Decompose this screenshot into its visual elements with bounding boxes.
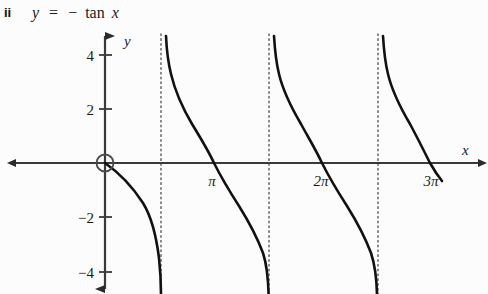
- figure-canvas: 4 2 −2 −4 π 2π 3π y x ii y = − tan x: [0, 0, 488, 294]
- equation-function: tan: [85, 4, 105, 21]
- y-axis-label: y: [122, 33, 131, 49]
- equation-minus: −: [68, 4, 77, 21]
- y-tick-label-4: 4: [87, 48, 95, 64]
- y-tick-label-minus-4: −4: [78, 265, 94, 281]
- y-tick-label-minus-2: −2: [78, 210, 94, 226]
- background: [0, 0, 488, 294]
- equation-variable: x: [111, 4, 119, 21]
- x-tick-label-pi: π: [208, 173, 216, 189]
- y-tick-label-2: 2: [87, 102, 95, 118]
- tangent-graph-svg: 4 2 −2 −4 π 2π 3π y x ii y = − tan x: [0, 0, 488, 294]
- x-tick-label-2pi: 2π: [313, 173, 329, 189]
- x-axis-label: x: [461, 142, 469, 158]
- equation-equals: =: [49, 4, 58, 21]
- equation-y: y: [30, 4, 40, 22]
- item-number: ii: [4, 5, 11, 20]
